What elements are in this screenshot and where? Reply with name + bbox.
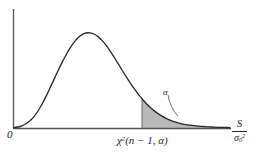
statistic-fraction: S σ02: [232, 118, 247, 143]
critical-value-label: χ2(n − 1, α): [117, 135, 168, 146]
x-axis-name-label: S σ02: [232, 118, 247, 143]
density-curve: [14, 33, 230, 128]
fraction-denominator: σ02: [232, 133, 247, 144]
sigma-superscript: 2: [242, 132, 245, 139]
chi-square-distribution-figure: 0 α χ2(n − 1, α) S σ02: [0, 0, 255, 160]
tail-shaded-region: [142, 99, 230, 128]
fraction-numerator: S: [232, 118, 247, 130]
alpha-leader-line: [168, 95, 178, 116]
chi-arguments: (n − 1, α): [125, 134, 168, 146]
origin-label: 0: [7, 129, 13, 140]
alpha-area-label: α: [163, 88, 168, 97]
